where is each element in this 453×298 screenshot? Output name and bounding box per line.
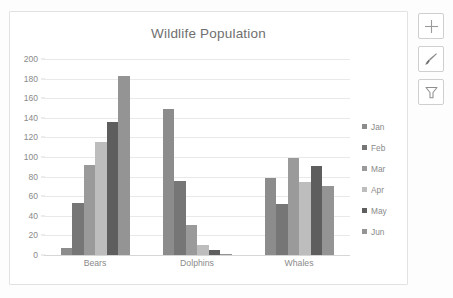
legend-swatch-jun bbox=[362, 229, 367, 234]
chart-title: Wildlife Population bbox=[10, 26, 407, 41]
y-axis-tick-label: 200 bbox=[24, 54, 38, 64]
bar-dolphins-jan[interactable] bbox=[163, 109, 175, 255]
bar-whales-apr[interactable] bbox=[299, 182, 311, 256]
legend-item-feb[interactable]: Feb bbox=[362, 137, 408, 158]
x-axis-label-bears: Bears bbox=[44, 258, 146, 268]
bar-whales-may[interactable] bbox=[311, 166, 323, 255]
bar-whales-mar[interactable] bbox=[288, 158, 300, 255]
y-axis-tick-label: 80 bbox=[29, 172, 38, 182]
legend-item-jan[interactable]: Jan bbox=[362, 116, 408, 137]
y-axis-tick-label: 0 bbox=[33, 250, 38, 260]
bar-bears-apr[interactable] bbox=[95, 142, 107, 255]
y-axis-tick-label: 120 bbox=[24, 132, 38, 142]
legend-label-apr: Apr bbox=[371, 185, 384, 195]
bar-group-dolphins bbox=[146, 59, 248, 255]
chart-legend: JanFebMarAprMayJun bbox=[362, 116, 408, 242]
bar-dolphins-may[interactable] bbox=[209, 250, 221, 255]
y-axis-tick-label: 40 bbox=[29, 211, 38, 221]
bar-dolphins-apr[interactable] bbox=[197, 245, 209, 255]
bar-whales-feb[interactable] bbox=[276, 204, 288, 255]
y-axis-tick-label: 140 bbox=[24, 113, 38, 123]
legend-label-feb: Feb bbox=[371, 143, 385, 153]
gridline bbox=[44, 255, 350, 256]
y-axis: 200180160140120100806040200 bbox=[10, 59, 41, 255]
chart-styles-button[interactable] bbox=[418, 46, 444, 72]
x-axis-label-whales: Whales bbox=[248, 258, 350, 268]
legend-label-jan: Jan bbox=[371, 122, 384, 132]
x-axis-label-dolphins: Dolphins bbox=[146, 258, 248, 268]
bar-group-whales bbox=[248, 59, 350, 255]
brush-icon bbox=[423, 51, 439, 67]
plot-area bbox=[44, 59, 350, 255]
chart-screenshot: Wildlife Population 20018016014012010080… bbox=[0, 0, 453, 298]
bar-bears-mar[interactable] bbox=[84, 165, 96, 255]
legend-item-may[interactable]: May bbox=[362, 200, 408, 221]
chart-filters-button[interactable] bbox=[418, 79, 444, 105]
chart-container[interactable]: Wildlife Population 20018016014012010080… bbox=[9, 11, 408, 285]
legend-swatch-feb bbox=[362, 145, 367, 150]
funnel-icon bbox=[424, 85, 439, 100]
legend-swatch-jan bbox=[362, 124, 367, 129]
legend-item-apr[interactable]: Apr bbox=[362, 179, 408, 200]
y-axis-tick-label: 20 bbox=[29, 230, 38, 240]
bar-group-bears bbox=[44, 59, 146, 255]
legend-item-jun[interactable]: Jun bbox=[362, 221, 408, 242]
legend-label-may: May bbox=[371, 206, 387, 216]
bar-bears-feb[interactable] bbox=[72, 203, 84, 255]
bar-whales-jun[interactable] bbox=[322, 186, 334, 255]
bar-dolphins-feb[interactable] bbox=[174, 181, 186, 255]
chart-elements-button[interactable] bbox=[418, 13, 444, 39]
bar-dolphins-mar[interactable] bbox=[186, 225, 198, 255]
legend-item-mar[interactable]: Mar bbox=[362, 158, 408, 179]
y-axis-tick-label: 180 bbox=[24, 74, 38, 84]
bar-bears-jan[interactable] bbox=[61, 248, 73, 255]
bar-whales-jan[interactable] bbox=[265, 178, 277, 255]
bar-dolphins-jun[interactable] bbox=[220, 254, 232, 255]
y-axis-tick-label: 60 bbox=[29, 191, 38, 201]
bar-bears-may[interactable] bbox=[107, 122, 119, 255]
legend-label-jun: Jun bbox=[371, 227, 384, 237]
legend-swatch-apr bbox=[362, 187, 367, 192]
legend-label-mar: Mar bbox=[371, 164, 385, 174]
plus-icon bbox=[424, 19, 439, 34]
y-axis-tick-label: 100 bbox=[24, 152, 38, 162]
legend-swatch-may bbox=[362, 208, 367, 213]
y-axis-tick-label: 160 bbox=[24, 93, 38, 103]
chart-button-toolbar bbox=[418, 13, 444, 105]
legend-swatch-mar bbox=[362, 166, 367, 171]
bar-bears-jun[interactable] bbox=[118, 76, 130, 255]
x-axis-labels: BearsDolphinsWhales bbox=[44, 258, 350, 268]
bar-series-container bbox=[44, 59, 350, 255]
